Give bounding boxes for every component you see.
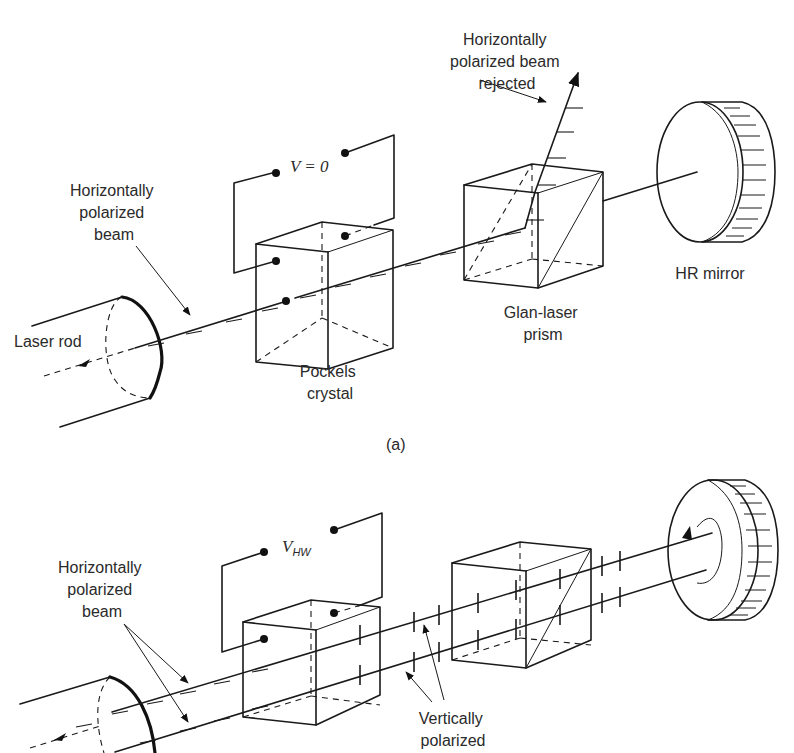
label-voltage-hw: VHW xyxy=(282,537,312,558)
label-laser-rod: Laser rod xyxy=(14,333,82,350)
panel-b: VHW Horizontally polarized beam Vertical… xyxy=(20,480,778,753)
label-voltage-zero: V = 0 xyxy=(290,157,329,176)
label-rejected-beam: Horizontally polarized beam rejected xyxy=(450,31,564,92)
laser-rod-b xyxy=(20,677,155,753)
panel-a-caption: (a) xyxy=(386,436,406,453)
panel-a: Horizontally polarized beam rejected Hor… xyxy=(14,31,775,453)
pointer-horizontal-beam-b2 xyxy=(124,624,188,722)
glan-laser-prism-a xyxy=(464,73,697,288)
label-horizontal-beam-b: Horizontally polarized beam xyxy=(58,559,146,620)
beam-a xyxy=(135,228,525,348)
pockels-crystal-b xyxy=(222,513,382,725)
label-horizontal-beam-a: Horizontally polarized beam xyxy=(70,182,158,243)
hr-mirror-a xyxy=(657,102,775,242)
label-vertical-beam-b: Vertically polarized xyxy=(419,710,487,749)
pointer-vertical-beam-b1 xyxy=(406,672,432,702)
pointer-vertical-beam-b2 xyxy=(424,625,444,700)
pockels-cell-qswitch-diagram: Horizontally polarized beam rejected Hor… xyxy=(0,0,794,753)
rotation-arrow xyxy=(697,518,722,583)
laser-rod-a xyxy=(32,297,162,427)
label-hr-mirror: HR mirror xyxy=(675,265,745,282)
hr-mirror-b xyxy=(668,480,778,620)
beams-b xyxy=(76,533,712,752)
pointer-horizontal-beam-a xyxy=(136,246,190,315)
label-pockels-crystal: Pockels crystal xyxy=(300,363,360,402)
pointer-horizontal-beam-b1 xyxy=(124,624,188,683)
label-glan-laser-prism: Glan-laser prism xyxy=(504,304,582,343)
